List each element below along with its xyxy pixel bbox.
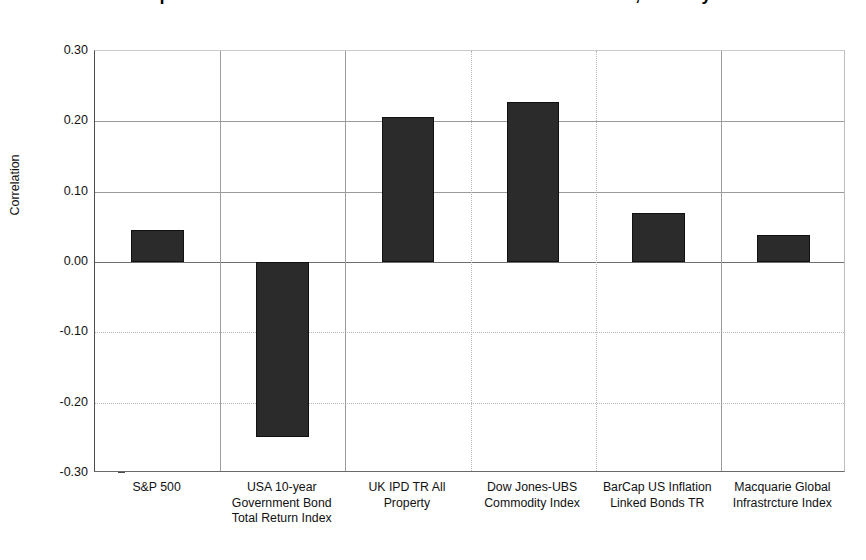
- bar[interactable]: [507, 102, 560, 262]
- bar[interactable]: [382, 117, 435, 262]
- y-axis-title: Correlation: [8, 130, 22, 240]
- bar[interactable]: [632, 213, 685, 262]
- gridline: [95, 332, 844, 333]
- x-axis-label-line: Linked Bonds TR: [595, 496, 720, 512]
- category-separator: [220, 51, 221, 471]
- x-axis-category-label: Macquarie GlobalInfrastrcture Index: [720, 480, 845, 511]
- chart-title: Correlation of Macquarie Global Infrastr…: [0, 0, 866, 4]
- y-tick-label: -0.10: [36, 325, 88, 337]
- gridline: [95, 192, 844, 193]
- x-axis-label-line: Infrastrcture Index: [720, 496, 845, 512]
- category-separator: [345, 51, 346, 471]
- x-axis-label-line: Dow Jones-UBS: [470, 480, 595, 496]
- x-axis-label-line: UK IPD TR All: [344, 480, 469, 496]
- x-axis-label-line: Property: [344, 496, 469, 512]
- y-tick-label: 0.10: [36, 185, 88, 197]
- category-separator: [471, 51, 472, 471]
- category-separator: [596, 51, 597, 471]
- x-axis-category-label: USA 10-yearGovernment BondTotal Return I…: [219, 480, 344, 527]
- y-tick-label: -0.30: [36, 466, 88, 478]
- bar[interactable]: [757, 235, 810, 262]
- bar[interactable]: [256, 262, 309, 437]
- y-tick-label: -0.20: [36, 396, 88, 408]
- y-tick-label: 0.00: [36, 255, 88, 267]
- y-tick-label: 0.20: [36, 114, 88, 126]
- x-axis-category-label: S&P 500: [94, 480, 219, 496]
- y-tick-label: 0.30: [36, 44, 88, 56]
- x-axis-category-label: Dow Jones-UBSCommodity Index: [470, 480, 595, 511]
- gridline: [95, 121, 844, 122]
- x-axis-label-line: Commodity Index: [470, 496, 595, 512]
- y-tick-mark: [118, 472, 125, 473]
- y-axis-ticks: 0.300.200.100.00-0.10-0.20-0.30: [30, 0, 88, 560]
- category-separator: [721, 51, 722, 471]
- x-axis-label-line: Government Bond: [219, 496, 344, 512]
- x-axis-label-line: BarCap US Inflation: [595, 480, 720, 496]
- x-axis-label-line: S&P 500: [94, 480, 219, 496]
- x-axis-category-label: UK IPD TR AllProperty: [344, 480, 469, 511]
- x-axis-label-line: Total Return Index: [219, 511, 344, 527]
- x-axis-label-line: USA 10-year: [219, 480, 344, 496]
- chart-figure: Correlation of Macquarie Global Infrastr…: [0, 0, 866, 560]
- plot-area: [94, 50, 845, 472]
- x-axis-category-label: BarCap US InflationLinked Bonds TR: [595, 480, 720, 511]
- gridline: [95, 262, 844, 263]
- x-axis-labels: S&P 500USA 10-yearGovernment BondTotal R…: [94, 480, 845, 546]
- x-axis-label-line: Macquarie Global: [720, 480, 845, 496]
- gridline: [95, 403, 844, 404]
- bar[interactable]: [131, 230, 184, 262]
